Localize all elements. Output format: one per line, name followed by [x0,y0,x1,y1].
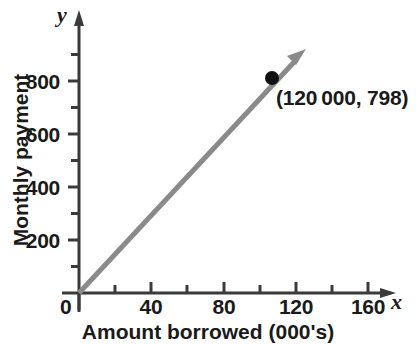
x-tick-label-80: 80 [204,295,244,319]
data-line-series [79,49,306,293]
x-axis-ticks [115,282,368,293]
origin-label: 0 [60,295,72,319]
y-axis-variable-label: y [57,2,67,28]
chart-figure: 200 400 600 800 40 80 120 160 0 y x Mont… [0,0,416,344]
trend-line-arrow-icon [287,49,306,65]
x-axis-title: Amount borrowed (000's) [0,320,416,344]
x-axis-variable-label: x [391,289,402,315]
trend-line [79,60,296,293]
y-axis-arrow-icon [74,10,84,26]
x-tick-label-40: 40 [131,295,171,319]
chart-plot-area [0,0,416,344]
data-point-marker [265,71,279,85]
y-axis-ticks [68,55,79,267]
x-tick-label-160: 160 [344,295,392,319]
y-axis-title: Monthly payment [9,65,33,255]
x-tick-label-120: 120 [272,295,320,319]
data-point-annotation-label: (120 000, 798) [276,86,408,110]
